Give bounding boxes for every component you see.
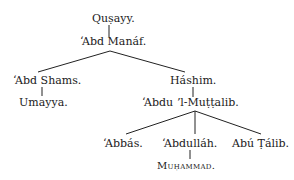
node-hashim: Háshim. xyxy=(170,75,216,87)
node-abdu-l-muttalib: ʻAbdu ʼl-Muṭṭalib. xyxy=(142,97,239,109)
edge-abd-manaf-hashim xyxy=(110,51,185,72)
edge-muttalib-abu-talib xyxy=(195,111,261,134)
node-abd-shams: ʻAbd Shams. xyxy=(13,75,81,87)
node-abu-talib: Abú Ṭálib. xyxy=(232,138,289,150)
node-muhammad: Muḥammad. xyxy=(157,160,215,172)
node-abd-manaf: ʻAbd Manáf. xyxy=(80,36,146,48)
node-abbas: ʻAbbás. xyxy=(103,138,143,150)
edge-abd-manaf-abd-shams xyxy=(38,51,110,72)
node-umayya: Umayya. xyxy=(19,97,68,109)
node-abdullah: ʻAbdulláh. xyxy=(162,138,217,150)
edge-muttalib-abbas xyxy=(126,111,195,134)
tree-connectors xyxy=(0,0,294,180)
node-qusayy: Quṣayy. xyxy=(92,13,135,25)
